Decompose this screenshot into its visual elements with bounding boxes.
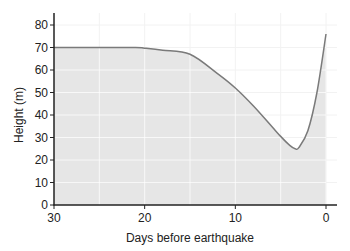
x-tick-label: 0 — [323, 211, 330, 225]
y-tick-label: 60 — [35, 63, 49, 77]
y-tick: 30 — [35, 131, 54, 145]
y-tick-label: 80 — [35, 18, 49, 32]
y-tick: 80 — [35, 18, 54, 32]
y-tick-label: 20 — [35, 153, 49, 167]
y-tick: 20 — [35, 153, 54, 167]
x-tick: 20 — [138, 205, 152, 225]
y-tick: 70 — [35, 41, 54, 55]
y-tick-label: 0 — [41, 198, 48, 212]
y-tick: 0 — [41, 198, 54, 212]
x-tick: 10 — [229, 205, 243, 225]
y-tick-label: 70 — [35, 41, 49, 55]
x-axis-ticks: 3020100 — [47, 205, 329, 225]
x-tick-label: 10 — [229, 211, 243, 225]
y-axis-label: Height (m) — [12, 87, 26, 143]
y-tick: 60 — [35, 63, 54, 77]
y-tick: 10 — [35, 176, 54, 190]
y-tick-label: 50 — [35, 86, 49, 100]
x-tick: 30 — [47, 205, 61, 225]
y-axis-ticks: 01020304050607080 — [35, 18, 54, 212]
y-tick-label: 30 — [35, 131, 49, 145]
y-tick-label: 10 — [35, 176, 49, 190]
y-tick: 40 — [35, 108, 54, 122]
x-axis-label: Days before earthquake — [126, 231, 254, 245]
y-tick-label: 40 — [35, 108, 49, 122]
x-tick-label: 20 — [138, 211, 152, 225]
y-tick: 50 — [35, 86, 54, 100]
x-tick-label: 30 — [47, 211, 61, 225]
x-tick: 0 — [323, 205, 330, 225]
chart: 01020304050607080 3020100 Days before ea… — [0, 0, 350, 251]
